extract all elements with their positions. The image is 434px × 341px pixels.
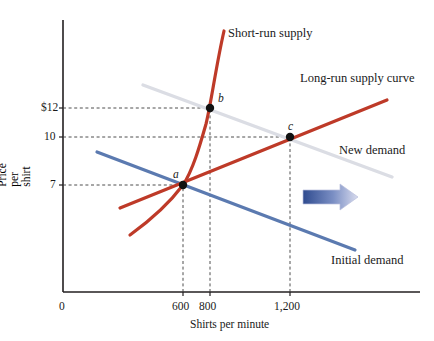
x-tick-label-800: 800 [199,301,216,313]
new-demand-label: New demand [339,144,405,157]
chart-plot-area [0,0,434,341]
x-tick-label-0: 0 [59,301,65,313]
dashed-guides [63,108,290,292]
demand-shift-arrow [303,184,358,210]
y-tick-label-10: 10 [44,131,56,143]
y-tick-label-12: $12 [41,102,58,114]
short-run-supply-label: Short-run supply [228,27,312,40]
x-tick-label-600: 600 [172,301,189,313]
point-a-label: a [173,169,179,181]
point-c-dot [286,133,294,141]
point-c-label: c [288,121,293,133]
supply-demand-figure: $12 10 7 0 600 800 1,200 Shirts per minu… [0,0,434,341]
point-b-dot [206,104,214,112]
x-tick-label-1200: 1,200 [274,301,300,313]
x-axis-title: Shirts per minute [190,319,269,331]
point-b-label: b [218,93,224,105]
y-axis-title: Price per shirt [0,163,32,187]
long-run-supply-label: Long-run supply curve [300,72,415,85]
new-demand-line [143,85,392,177]
initial-demand-label: Initial demand [331,254,404,267]
y-tick-label-7: 7 [50,179,56,191]
point-a-dot [179,181,187,189]
y-axis-title-wrapper: Price per shirt [6,115,22,235]
